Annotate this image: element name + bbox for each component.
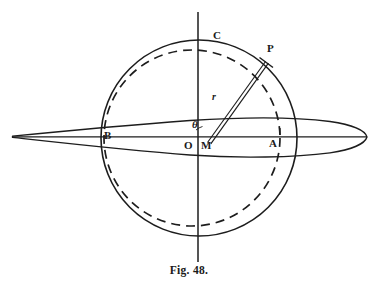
oval-curve <box>13 118 368 157</box>
label-point-a: A <box>269 138 277 149</box>
figure-page: C P r θ B O M A Fig. 48. <box>0 0 378 291</box>
radius-vector <box>208 58 274 144</box>
dashed-circle <box>104 50 280 226</box>
label-point-p: P <box>267 43 274 54</box>
label-angle-theta: θ <box>192 119 198 130</box>
label-point-o: O <box>184 140 193 151</box>
label-point-m: M <box>201 140 212 151</box>
label-point-c: C <box>213 30 221 41</box>
label-radius-r: r <box>212 92 216 102</box>
figure-caption: Fig. 48. <box>0 264 378 276</box>
label-point-b: B <box>104 130 112 141</box>
solid-circle <box>101 40 297 236</box>
